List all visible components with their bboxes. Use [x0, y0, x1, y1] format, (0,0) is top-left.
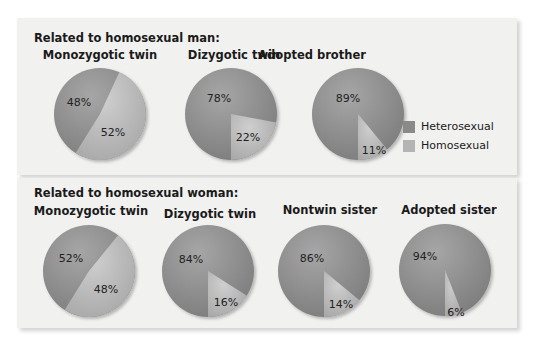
pct-woman-dz-het: 84% — [179, 253, 203, 266]
pie-chart-woman-nontwin-sister — [276, 223, 376, 323]
pct-woman-nts-het: 86% — [300, 252, 324, 265]
pct-woman-as-hom: 6% — [447, 306, 464, 319]
pct-man-mz-het: 48% — [67, 96, 91, 109]
pct-man-mz-hom: 52% — [101, 126, 125, 139]
legend-label-homosexual: Homosexual — [421, 139, 489, 152]
pie-chart-man-mz — [52, 66, 152, 166]
pct-man-dz-het: 78% — [207, 92, 231, 105]
legend-item-heterosexual: Heterosexual — [403, 117, 494, 136]
pct-man-ab-het: 89% — [336, 92, 360, 105]
pie-label-man-mz: Monozygotic twin — [43, 48, 157, 62]
section-title-man: Related to homosexual man: — [34, 31, 220, 45]
legend-label-heterosexual: Heterosexual — [421, 120, 494, 133]
pct-man-dz-hom: 22% — [236, 131, 260, 144]
pct-man-ab-hom: 11% — [362, 144, 386, 157]
pie-chart-woman-mz — [41, 223, 141, 323]
section-title-woman: Related to homosexual woman: — [34, 186, 238, 200]
legend: Heterosexual Homosexual — [403, 117, 494, 155]
pct-woman-as-het: 94% — [413, 250, 437, 263]
pie-chart-man-dz — [183, 66, 283, 166]
pct-woman-mz-hom: 48% — [94, 283, 118, 296]
pie-chart-woman-dz — [160, 223, 260, 323]
legend-item-homosexual: Homosexual — [403, 136, 494, 155]
pie-chart-man-adopted-brother — [310, 66, 410, 166]
pie-label-man-adopted-brother: Adopted brother — [258, 48, 366, 62]
pie-label-woman-nontwin-sister: Nontwin sister — [283, 203, 378, 217]
swatch-homosexual — [403, 140, 415, 152]
pct-woman-mz-het: 52% — [59, 252, 83, 265]
pie-label-woman-mz: Monozygotic twin — [34, 204, 148, 218]
pie-label-woman-adopted-sister: Adopted sister — [401, 203, 496, 217]
pct-woman-nts-hom: 14% — [329, 298, 353, 311]
swatch-heterosexual — [403, 121, 415, 133]
pie-label-woman-dz: Dizygotic twin — [164, 207, 256, 221]
pct-woman-dz-hom: 16% — [214, 296, 238, 309]
